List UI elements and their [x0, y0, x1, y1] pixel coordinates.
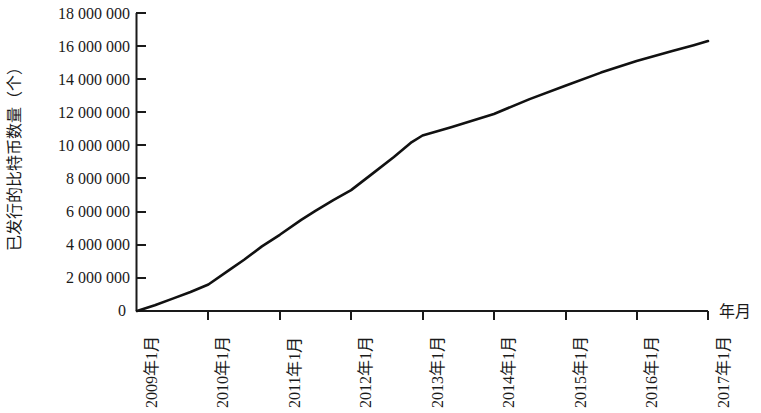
x-tick-marks [208, 311, 708, 320]
y-axis-zero-label: 0 [118, 303, 126, 319]
y-tick-label: 10 000 000 [18, 138, 130, 154]
x-tick-label-2012: 2012年1月 [358, 336, 374, 408]
y-tick-label: 12 000 000 [18, 105, 130, 121]
y-tick-label: 2 000 000 [18, 270, 130, 286]
y-tick-label: 16 000 000 [18, 39, 130, 55]
x-tick-label-2009: 2009年1月 [144, 336, 160, 408]
x-tick-label-2013: 2013年1月 [430, 336, 446, 408]
x-axis-title: 年月 [719, 304, 751, 320]
y-tick-label: 8 000 000 [18, 171, 130, 187]
y-tick-label: 4 000 000 [18, 237, 130, 253]
y-tick-label: 6 000 000 [18, 204, 130, 220]
x-tick-label-2016: 2016年1月 [644, 336, 660, 408]
bitcoin-supply-chart: 已发行的比特币数量（个） 18 000 000 16 000 000 14 00… [0, 0, 761, 413]
y-tick-label: 14 000 000 [18, 72, 130, 88]
y-tick-label: 18 000 000 [18, 6, 130, 22]
x-tick-label-2011: 2011年1月 [287, 337, 303, 408]
x-tick-label-2014: 2014年1月 [501, 336, 517, 408]
data-series-line [137, 41, 708, 311]
y-axis-tick-labels: 18 000 000 16 000 000 14 000 000 12 000 … [18, 0, 130, 413]
x-tick-label-2015: 2015年1月 [573, 336, 589, 408]
x-tick-label-2017: 2017年1月 [716, 336, 732, 408]
x-tick-label-2010: 2010年1月 [215, 336, 231, 408]
